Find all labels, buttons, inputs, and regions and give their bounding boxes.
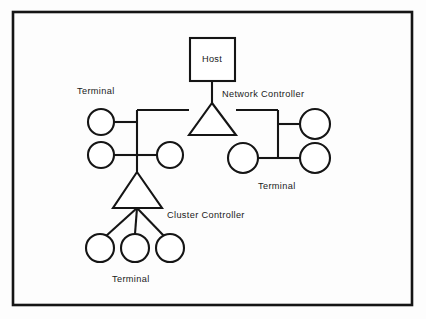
diagram-canvas: Host Network Controller Cluster Controll… xyxy=(0,0,426,319)
cluster-spoke-left xyxy=(106,208,137,236)
network-controller-label: Network Controller xyxy=(222,89,304,99)
terminal-right-lower[interactable] xyxy=(300,143,330,173)
cluster-spoke-right xyxy=(137,208,164,236)
terminal-left-lower[interactable] xyxy=(88,142,114,168)
cluster-controller-label: Cluster Controller xyxy=(167,210,245,220)
terminal-mid-right[interactable] xyxy=(157,142,183,168)
cluster-controller-triangle[interactable] xyxy=(113,172,162,208)
network-controller-triangle[interactable] xyxy=(189,103,236,135)
terminal-right-inner[interactable] xyxy=(228,143,258,173)
host-label: Host xyxy=(202,54,222,64)
terminal-left-upper[interactable] xyxy=(88,109,114,135)
terminal-right-upper[interactable] xyxy=(300,109,330,139)
terminal-label-bottom: Terminal xyxy=(112,274,150,284)
terminal-cluster-1[interactable] xyxy=(86,234,114,262)
network-diagram: Host Network Controller Cluster Controll… xyxy=(0,0,426,319)
terminal-label-top-left: Terminal xyxy=(77,86,115,96)
terminal-cluster-2[interactable] xyxy=(121,234,149,262)
terminal-label-right: Terminal xyxy=(258,181,296,191)
terminal-cluster-3[interactable] xyxy=(156,234,184,262)
cluster-spoke-center xyxy=(135,208,137,234)
